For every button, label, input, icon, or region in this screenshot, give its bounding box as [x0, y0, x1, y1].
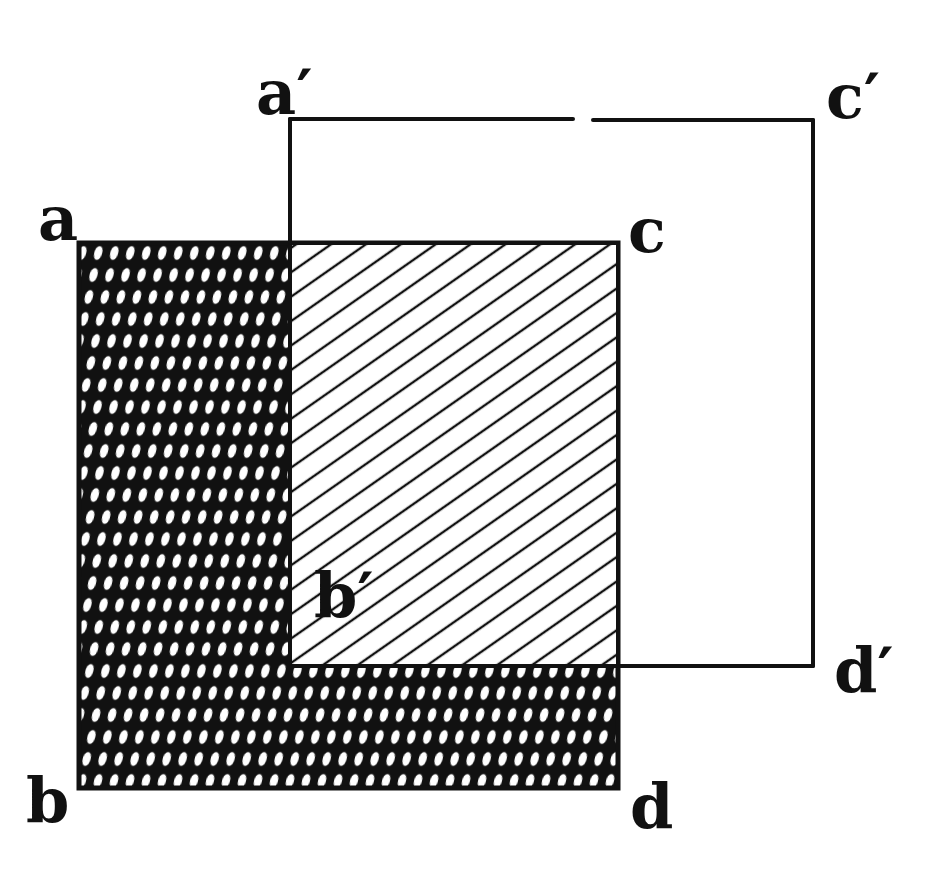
label-a-prime: a′ [256, 62, 313, 124]
label-d: d [630, 776, 673, 838]
diagram-stage: a b c d a′ b′ c′ d′ [0, 0, 937, 879]
label-a: a [38, 188, 78, 250]
overlapping-squares-figure [0, 0, 937, 879]
label-b-prime: b′ [314, 565, 374, 627]
label-c-prime: c′ [826, 66, 880, 128]
label-c: c [628, 200, 666, 262]
label-b: b [26, 770, 69, 832]
label-d-prime: d′ [834, 640, 894, 702]
